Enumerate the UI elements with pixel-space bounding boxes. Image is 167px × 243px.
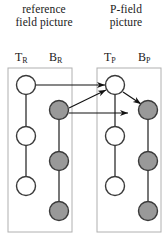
field-node-tp3	[106, 177, 125, 196]
field-node-tr1	[17, 76, 36, 95]
field-node-tp1	[106, 76, 125, 95]
field-node-br1	[50, 101, 69, 120]
diagram-canvas	[0, 0, 167, 243]
field-nodes	[17, 76, 158, 221]
field-prediction-diagram: reference field picture P-field picture …	[0, 0, 167, 243]
field-node-br3	[50, 202, 69, 221]
arrow-br1-to-tp1	[69, 90, 106, 108]
field-node-tr2	[17, 127, 36, 146]
field-node-bp3	[139, 202, 158, 221]
arrow-tp1-to-bp1	[123, 92, 141, 104]
field-node-tr3	[17, 177, 36, 196]
field-node-bp1	[139, 101, 158, 120]
field-node-br2	[50, 152, 69, 171]
field-node-bp2	[139, 152, 158, 171]
field-node-tp2	[106, 127, 125, 146]
field-connectors	[26, 95, 148, 202]
